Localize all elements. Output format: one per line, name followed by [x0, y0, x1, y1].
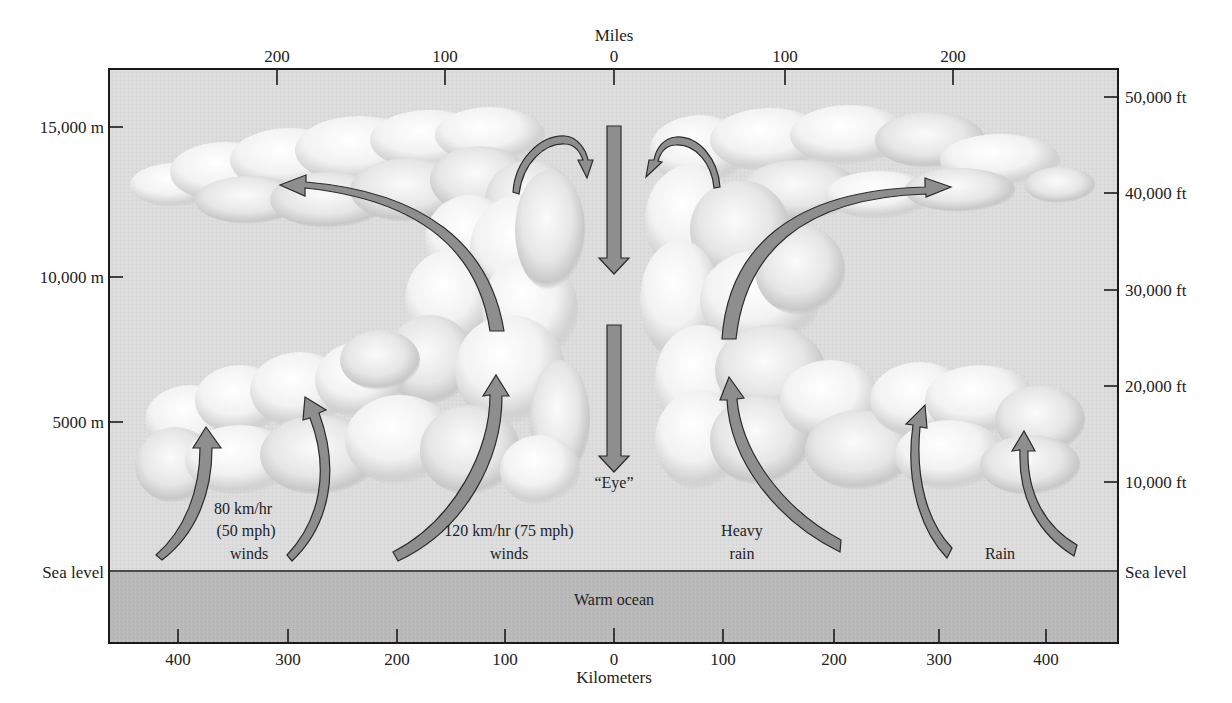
- left-tick-label: 15,000 m: [40, 118, 104, 137]
- bottom-tick-label: 100: [710, 650, 736, 669]
- left-tick-label: 5000 m: [53, 413, 104, 432]
- right-tick-label: 40,000 ft: [1125, 184, 1187, 203]
- top-tick-label: 0: [610, 47, 619, 66]
- right-tick-label: 30,000 ft: [1125, 281, 1187, 300]
- bottom-axis-title: Kilometers: [576, 668, 652, 687]
- heavy-rain-label: rain: [730, 545, 755, 562]
- inner-winds-label: winds: [490, 545, 528, 562]
- top-axis-title: Miles: [595, 26, 634, 45]
- bottom-tick-label: 200: [821, 650, 847, 669]
- outer-winds-label: (50 mph): [216, 522, 275, 540]
- bottom-tick-label: 200: [384, 650, 410, 669]
- outer-winds-label: winds: [230, 545, 268, 562]
- right-sea-level-label: Sea level: [1125, 563, 1187, 582]
- top-tick-label: 100: [432, 47, 458, 66]
- bottom-tick-label: 300: [926, 650, 952, 669]
- top-tick-label: 200: [940, 47, 966, 66]
- top-tick-label: 100: [772, 47, 798, 66]
- bottom-tick-label: 0: [610, 650, 619, 669]
- left-sea-level-label: Sea level: [42, 563, 104, 582]
- heavy-rain-label: Heavy: [721, 522, 763, 540]
- bottom-tick-label: 300: [275, 650, 301, 669]
- inner-winds-label: 120 km/hr (75 mph): [444, 522, 573, 540]
- outer-winds-label: 80 km/hr: [214, 500, 273, 517]
- eye-label: “Eye”: [594, 474, 633, 492]
- right-tick-label: 50,000 ft: [1125, 88, 1187, 107]
- right-tick-label: 10,000 ft: [1125, 473, 1187, 492]
- bottom-tick-label: 400: [1033, 650, 1059, 669]
- warm-ocean-label: Warm ocean: [574, 591, 654, 608]
- bottom-tick-label: 400: [165, 650, 191, 669]
- top-tick-label: 200: [264, 47, 290, 66]
- hurricane-cross-section-diagram: Miles 200 100 0 100 200 400 300 200 100 …: [0, 0, 1232, 703]
- rain-label: Rain: [985, 545, 1015, 562]
- right-tick-label: 20,000 ft: [1125, 377, 1187, 396]
- left-tick-label: 10,000 m: [40, 268, 104, 287]
- bottom-tick-label: 100: [492, 650, 518, 669]
